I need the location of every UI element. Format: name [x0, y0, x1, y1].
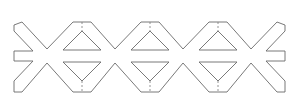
outer-outline [14, 22, 285, 92]
lattice-svg [0, 0, 306, 109]
triangle-cutout-upper-1 [63, 31, 101, 50]
triangle-cutout-lower-3 [199, 62, 237, 81]
triangle-cutout-upper-3 [199, 31, 237, 50]
triangle-cutout-lower-2 [131, 62, 169, 81]
triangle-cutout-lower-1 [63, 62, 101, 81]
lattice-diagram [0, 0, 306, 109]
triangle-cutout-upper-2 [131, 31, 169, 50]
